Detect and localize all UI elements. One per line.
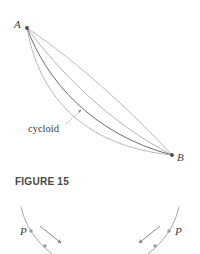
point-b-dot bbox=[170, 153, 174, 157]
bottom-right-particle-dot bbox=[167, 229, 170, 232]
main-curve-group bbox=[27, 28, 172, 155]
path-shallow-arc bbox=[27, 28, 172, 155]
bottom-left-group bbox=[21, 207, 61, 254]
point-a-dot bbox=[25, 26, 29, 30]
endpoint-group bbox=[25, 26, 174, 157]
bottom-right-particle-label: P bbox=[175, 226, 182, 237]
bottom-left-second-dot bbox=[43, 244, 46, 247]
path-straight-chord bbox=[27, 28, 172, 155]
figure-container: A B cycloid FIGURE 15 P P bbox=[0, 0, 200, 254]
path-cycloid bbox=[27, 28, 172, 155]
cycloid-leader-arrow bbox=[66, 110, 81, 124]
bottom-right-group bbox=[139, 207, 179, 254]
bottom-right-second-dot bbox=[153, 244, 156, 247]
cycloid-annotation-label: cycloid bbox=[28, 124, 59, 135]
figure-caption: FIGURE 15 bbox=[15, 176, 69, 187]
bottom-left-particle-dot bbox=[29, 229, 32, 232]
point-b-label: B bbox=[177, 152, 184, 163]
bottom-right-direction-arrow bbox=[139, 226, 160, 243]
bottom-left-direction-arrow bbox=[40, 226, 61, 243]
path-deep-arc bbox=[27, 28, 172, 155]
point-a-label: A bbox=[14, 19, 21, 30]
bottom-left-particle-label: P bbox=[20, 226, 27, 237]
